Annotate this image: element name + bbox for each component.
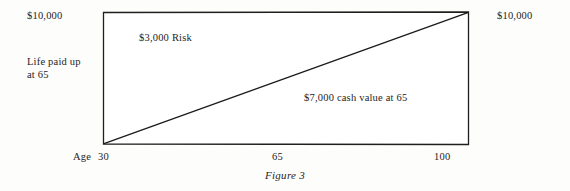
x-tick-label-65: 65 (272, 150, 283, 163)
x-tick-label-100: 100 (434, 150, 450, 163)
right-axis-value-label: $10,000 (497, 9, 533, 22)
life-paid-up-note: Life paid up at 65 (27, 55, 81, 81)
left-axis-value-label: $10,000 (27, 9, 63, 22)
figure-caption: Figure 3 (0, 169, 570, 181)
figure-3-container: $10,000 Life paid up at 65 $10,000 $3,00… (0, 0, 570, 191)
cash-value-annotation: $7,000 cash value at 65 (304, 91, 407, 104)
x-tick-label-30: 30 (98, 150, 109, 163)
x-axis-title: Age (73, 150, 91, 163)
risk-annotation: $3,000 Risk (139, 31, 192, 44)
